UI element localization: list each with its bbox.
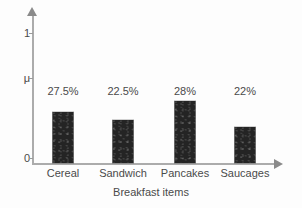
bar-cereal [53,112,74,163]
y-tick-mark-0 [29,158,33,159]
plot-area: 27.5% 22.5% 28% 22% [34,14,276,163]
y-tick-mark-mu [29,78,33,79]
x-axis-title: Breakfast items [0,186,302,199]
bar-value-sandwich: 22.5% [107,86,138,97]
y-tick-label-mu: μ [4,73,30,84]
bar-chart: 1 μ 0 27.5% 22.5% 28% 22% Cereal Sandwic… [0,0,302,208]
bar-pancakes [175,101,196,163]
bar-value-pancakes: 28% [174,86,196,97]
bar-group-saucages: 22% [216,14,274,163]
bar-sandwich [113,120,134,163]
y-tick-label-0: 0 [4,153,30,164]
bar-value-cereal: 27.5% [47,86,78,97]
bar-group-sandwich: 22.5% [94,14,152,163]
x-axis-line [32,163,276,165]
x-tick-label-saucages: Saucages [208,167,282,180]
bar-value-saucages: 22% [234,86,256,97]
bar-saucages [235,127,256,163]
bar-group-pancakes: 28% [156,14,214,163]
y-tick-label-1: 1 [4,28,30,39]
y-tick-mark-1 [29,33,33,34]
bar-group-cereal: 27.5% [34,14,92,163]
